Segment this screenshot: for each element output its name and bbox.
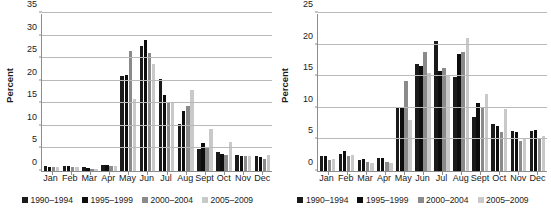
bar <box>244 156 247 171</box>
x-tick-label: Feb <box>60 174 79 183</box>
bar <box>496 126 499 171</box>
legend-swatch-icon <box>82 197 88 203</box>
bar-group <box>413 14 432 171</box>
bar <box>446 76 449 171</box>
legend-item[interactable]: 2000–2004 <box>142 196 193 205</box>
bar <box>370 163 373 171</box>
y-tick-label: 10 <box>303 94 313 103</box>
bar <box>511 131 514 171</box>
bar <box>56 167 59 171</box>
bar <box>259 157 262 171</box>
y-tick-label: 25 <box>27 45 37 54</box>
legend-item[interactable]: 1990–1994 <box>297 196 348 205</box>
bar <box>328 160 331 171</box>
legend-item[interactable]: 2005–2009 <box>478 196 529 205</box>
plot-area-left: 05101520253035 <box>41 14 272 172</box>
y-tick-mark <box>39 57 42 58</box>
bar <box>263 159 266 171</box>
bar-group <box>432 14 451 171</box>
bar <box>343 151 346 171</box>
bar <box>220 154 223 171</box>
bar <box>248 156 251 171</box>
legend-label: 1990–1994 <box>306 196 349 205</box>
bar-group <box>375 14 394 171</box>
chart-legend-right: 1990–19941995–19992000–20042005–2009 <box>275 196 551 205</box>
bar <box>438 71 441 171</box>
x-tick-label: Dec <box>528 174 547 183</box>
bar <box>240 156 243 171</box>
legend-swatch-icon <box>202 197 208 203</box>
bar <box>224 155 227 171</box>
bar-group <box>356 14 375 171</box>
bar <box>415 64 418 171</box>
bar-group <box>471 14 490 171</box>
legend-swatch-icon <box>22 197 28 203</box>
bar <box>377 158 380 171</box>
legend-swatch-icon <box>418 197 424 203</box>
x-tick-label: Apr <box>99 174 118 183</box>
bar <box>408 120 411 171</box>
bar <box>197 149 200 171</box>
legend-item[interactable]: 2005–2009 <box>202 196 253 205</box>
bar <box>140 46 143 171</box>
bar <box>485 94 488 171</box>
bar <box>267 155 270 171</box>
bar <box>332 159 335 171</box>
legend-item[interactable]: 1990–1994 <box>22 196 73 205</box>
legend-label: 2005–2009 <box>486 196 529 205</box>
bar <box>381 158 384 171</box>
y-axis-label-left: Percent <box>1 0 17 170</box>
chart-panel-right: Percent 0510152025 JanFebMarAprMayJunJul… <box>275 0 551 220</box>
bar <box>427 73 430 171</box>
bar <box>389 163 392 171</box>
bar <box>457 54 460 171</box>
bar <box>63 166 66 171</box>
legend-item[interactable]: 1995–1999 <box>357 196 408 205</box>
bar <box>171 103 174 171</box>
x-tick-label: Oct <box>214 174 233 183</box>
bar <box>534 130 537 171</box>
x-tick-label: Jun <box>137 174 156 183</box>
bar <box>320 156 323 171</box>
bar <box>120 76 123 171</box>
y-tick-mark <box>315 75 318 76</box>
y-axis-label-right: Percent <box>276 0 292 170</box>
x-tick-label: Mar <box>80 174 99 183</box>
bar <box>44 166 47 171</box>
bar-group <box>509 14 528 171</box>
bar <box>423 52 426 171</box>
x-axis-labels-right: JanFebMarAprMayJunJulAugSeptOctNovDec <box>317 174 547 183</box>
bar <box>523 138 526 171</box>
bar <box>205 147 208 171</box>
legend-label: 2000–2004 <box>426 196 469 205</box>
bar <box>255 156 258 171</box>
chart-legend-left: 1990–19941995–19992000–20042005–2009 <box>0 196 275 205</box>
bar <box>324 156 327 171</box>
bar <box>542 136 545 171</box>
bar <box>182 111 185 171</box>
x-tick-label: Apr <box>375 174 394 183</box>
legend-item[interactable]: 2000–2004 <box>418 196 469 205</box>
x-tick-label: Feb <box>336 174 355 183</box>
bar-group <box>337 14 356 171</box>
plot-area-right: 0510152025 <box>317 14 547 172</box>
gridline <box>318 44 547 45</box>
bar <box>129 51 132 171</box>
bar <box>144 40 147 171</box>
bar-group <box>394 14 413 171</box>
legend-swatch-icon <box>357 197 363 203</box>
bar <box>125 75 128 171</box>
gridline <box>318 107 547 108</box>
y-tick-mark <box>315 138 318 139</box>
legend-swatch-icon <box>142 197 148 203</box>
y-tick-mark <box>39 34 42 35</box>
y-tick-label: 25 <box>303 0 313 9</box>
legend-label: 1995–1999 <box>366 196 409 205</box>
bar <box>186 106 189 171</box>
y-tick-label: 15 <box>27 90 37 99</box>
x-axis-labels-left: JanFebMarAprMayJunJulAugSeptOctNovDec <box>41 174 272 183</box>
x-tick-label: Jun <box>413 174 432 183</box>
y-tick-label: 30 <box>27 22 37 31</box>
y-tick-label: 15 <box>303 63 313 72</box>
legend-item[interactable]: 1995–1999 <box>82 196 133 205</box>
